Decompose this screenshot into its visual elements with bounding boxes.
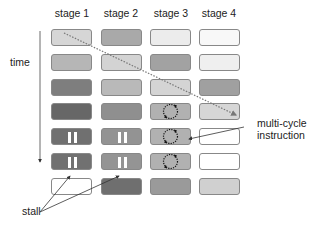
multicycle-label-line1: multi-cycle — [257, 117, 307, 129]
stall-pointer-arrow-2 — [40, 176, 119, 212]
instruction-flow-dashed-line — [64, 33, 236, 115]
multicycle-pointer-arrow — [189, 127, 244, 139]
multicycle-label-line2: instruction — [257, 129, 307, 141]
multicycle-label: multi-cycle instruction — [257, 117, 307, 141]
diagram-annotations — [0, 0, 315, 225]
stall-pointer-arrow-1 — [40, 176, 70, 212]
stall-label: stall — [22, 205, 41, 217]
